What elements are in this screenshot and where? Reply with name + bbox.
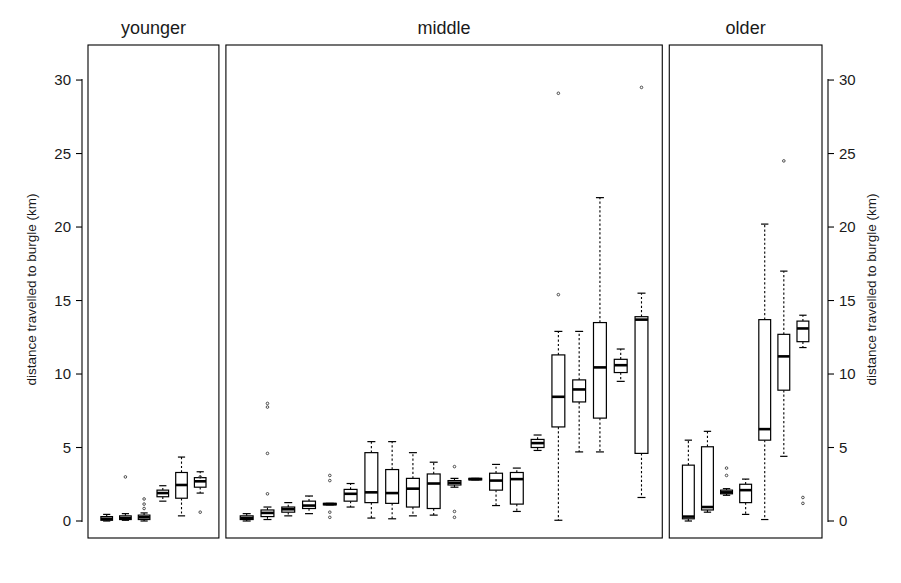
right-tick-label-10: 10 — [839, 365, 856, 382]
panel-titles: youngermiddleolder — [121, 18, 766, 38]
boxplot-m17 — [573, 331, 586, 452]
outlier-point — [725, 467, 728, 470]
right-y-axis: 051015202530 — [828, 71, 856, 529]
panel-older — [669, 45, 822, 538]
boxplot-m4 — [303, 496, 316, 514]
box-iqr — [427, 474, 440, 509]
box-iqr — [778, 334, 790, 390]
outlier-point — [199, 511, 202, 514]
left-tick-label-30: 30 — [54, 71, 71, 88]
box-iqr — [406, 478, 419, 507]
boxplot-m6 — [344, 484, 357, 508]
right-axis-title: distance travelled to burgle (km) — [864, 193, 879, 385]
left-axis-title: distance travelled to burgle (km) — [24, 193, 39, 385]
panel-frame-younger — [88, 45, 219, 538]
left-tick-label-20: 20 — [54, 218, 71, 235]
outlier-point — [266, 402, 269, 405]
boxplot-m18 — [593, 198, 606, 452]
boxplot-m8 — [386, 442, 399, 519]
chart-canvas: 051015202530 051015202530 distance trave… — [0, 0, 901, 583]
outlier-point — [266, 452, 269, 455]
axis-titles: distance travelled to burgle (km)distanc… — [24, 193, 879, 385]
right-tick-label-25: 25 — [839, 145, 856, 162]
outlier-point — [143, 503, 146, 506]
box-iqr — [635, 317, 648, 454]
box-iqr — [344, 489, 357, 501]
box-iqr — [386, 470, 399, 504]
panel-title-middle: middle — [418, 18, 471, 38]
outlier-point — [453, 516, 456, 519]
boxplot-y2 — [120, 476, 132, 521]
boxplot-o2 — [702, 431, 714, 512]
boxplot-m9 — [406, 453, 419, 516]
right-tick-label-5: 5 — [839, 439, 847, 456]
right-tick-label-30: 30 — [839, 71, 856, 88]
box-iqr — [552, 355, 565, 427]
boxplot-m3 — [282, 503, 295, 516]
box-iqr — [365, 453, 378, 503]
outlier-point — [329, 474, 332, 477]
boxplot-y4 — [157, 486, 169, 501]
panel-frame-older — [669, 45, 822, 538]
boxplot-o4 — [740, 479, 752, 514]
left-y-axis: 051015202530 — [54, 71, 82, 529]
boxplot-o5 — [759, 224, 771, 519]
boxplot-y5 — [176, 457, 188, 516]
boxplot-m14 — [510, 468, 523, 511]
boxplot-y6 — [194, 472, 206, 514]
box-iqr — [593, 323, 606, 419]
outlier-point — [783, 160, 786, 163]
panel-younger — [88, 45, 219, 538]
outlier-point — [453, 465, 456, 468]
outlier-point — [802, 496, 805, 499]
outlier-point — [143, 507, 146, 510]
outlier-point — [329, 479, 332, 482]
panel-title-older: older — [726, 18, 766, 38]
box-iqr — [682, 465, 694, 519]
boxplot-m16 — [552, 92, 565, 520]
outlier-point — [557, 293, 560, 296]
outlier-point — [725, 474, 728, 477]
right-tick-label-0: 0 — [839, 512, 847, 529]
left-tick-label-0: 0 — [63, 512, 71, 529]
boxplot-m20 — [635, 86, 648, 497]
right-tick-label-15: 15 — [839, 292, 856, 309]
outlier-point — [329, 516, 332, 519]
box-iqr — [740, 484, 752, 502]
outlier-point — [453, 510, 456, 513]
boxplot-m7 — [365, 442, 378, 518]
boxplot-m10 — [427, 462, 440, 515]
panel-title-younger: younger — [121, 18, 186, 38]
box-iqr — [702, 447, 714, 510]
outlier-point — [266, 493, 269, 496]
boxplot-m1 — [240, 514, 253, 521]
left-tick-label-15: 15 — [54, 292, 71, 309]
outlier-point — [329, 511, 332, 514]
boxplot-m12 — [469, 478, 482, 479]
boxplot-m13 — [490, 464, 503, 505]
box-iqr — [759, 320, 771, 441]
boxplot-o7 — [797, 315, 809, 504]
boxplot-y1 — [101, 514, 113, 521]
panel-middle — [226, 45, 662, 538]
boxplot-m5 — [323, 474, 336, 518]
left-tick-label-10: 10 — [54, 365, 71, 382]
box-iqr — [797, 321, 809, 342]
panel-group — [88, 45, 822, 538]
outlier-point — [266, 406, 269, 409]
left-tick-label-5: 5 — [63, 439, 71, 456]
box-iqr — [573, 380, 586, 402]
boxplot-figure: 051015202530 051015202530 distance trave… — [0, 0, 901, 583]
boxplot-y3 — [138, 498, 150, 521]
outlier-point — [143, 498, 146, 501]
boxplot-m19 — [614, 349, 627, 381]
left-tick-label-25: 25 — [54, 145, 71, 162]
outlier-point — [124, 476, 127, 479]
boxplot-m11 — [448, 465, 461, 518]
right-tick-label-20: 20 — [839, 218, 856, 235]
box-iqr — [510, 472, 523, 504]
outlier-point — [802, 502, 805, 505]
boxplot-o3 — [721, 467, 733, 495]
outlier-point — [640, 86, 643, 89]
boxplot-m15 — [531, 435, 544, 450]
